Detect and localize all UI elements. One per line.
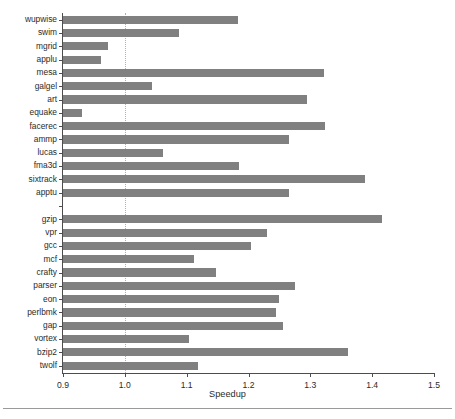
bar-row-parser bbox=[63, 279, 434, 292]
y-tick-label-crafty: crafty bbox=[0, 266, 57, 279]
bar-vpr bbox=[63, 229, 267, 237]
y-tick-label-parser: parser bbox=[0, 279, 57, 292]
y-tick-label-gap: gap bbox=[0, 319, 57, 332]
plot-area: 0.91.01.11.21.31.41.5 bbox=[62, 13, 434, 374]
bar-equake bbox=[63, 109, 82, 117]
y-tick-label-gcc: gcc bbox=[0, 239, 57, 252]
y-tick-label-facerec: facerec bbox=[0, 120, 57, 133]
bar-parser bbox=[63, 282, 295, 290]
speedup-bar-chart: 0.91.01.11.21.31.41.5 wupwiseswimmgridap… bbox=[0, 0, 455, 419]
y-tick-label-equake: equake bbox=[0, 106, 57, 119]
y-tick-label-lucas: lucas bbox=[0, 146, 57, 159]
bar-mgrid bbox=[63, 42, 108, 50]
y-tick-label-vortex: vortex bbox=[0, 332, 57, 345]
bar-row-lucas bbox=[63, 146, 434, 159]
y-tick-label-ammp: ammp bbox=[0, 133, 57, 146]
bar-row-mgrid bbox=[63, 40, 434, 53]
bar-row-gzip bbox=[63, 213, 434, 226]
y-tick-parser bbox=[59, 286, 63, 287]
bar-row-twolf bbox=[63, 359, 434, 372]
y-tick-gap bbox=[59, 326, 63, 327]
y-tick-label-gzip: gzip bbox=[0, 213, 57, 226]
y-tick-twolf bbox=[59, 366, 63, 367]
bar-row-spacer bbox=[63, 199, 434, 212]
bar-row-applu bbox=[63, 53, 434, 66]
y-tick-perlbmk bbox=[59, 312, 63, 313]
y-tick-art bbox=[59, 100, 63, 101]
bar-row-art bbox=[63, 93, 434, 106]
bar-swim bbox=[63, 29, 179, 37]
bar-perlbmk bbox=[63, 308, 276, 316]
y-tick-gzip bbox=[59, 219, 63, 220]
bar-lucas bbox=[63, 149, 163, 157]
x-tick-1.4 bbox=[372, 373, 373, 377]
y-tick-eon bbox=[59, 299, 63, 300]
bar-twolf bbox=[63, 362, 198, 370]
y-tick-label-swim: swim bbox=[0, 26, 57, 39]
bar-gap bbox=[63, 322, 283, 330]
bar-row-mesa bbox=[63, 66, 434, 79]
bar-row-swim bbox=[63, 26, 434, 39]
y-tick-equake bbox=[59, 113, 63, 114]
y-tick-label-wupwise: wupwise bbox=[0, 13, 57, 26]
y-tick-label-art: art bbox=[0, 93, 57, 106]
bar-row-apptu bbox=[63, 186, 434, 199]
y-tick-mgrid bbox=[59, 46, 63, 47]
bar-row-fma3d bbox=[63, 159, 434, 172]
y-tick-facerec bbox=[59, 126, 63, 127]
bar-row-bzip2 bbox=[63, 346, 434, 359]
bar-row-eon bbox=[63, 292, 434, 305]
bar-row-equake bbox=[63, 106, 434, 119]
y-tick-label-sixtrack: sixtrack bbox=[0, 173, 57, 186]
y-tick-label-mgrid: mgrid bbox=[0, 40, 57, 53]
y-tick-wupwise bbox=[59, 20, 63, 21]
y-tick-swim bbox=[59, 33, 63, 34]
bar-crafty bbox=[63, 268, 216, 276]
footer-divider bbox=[3, 408, 452, 409]
y-tick-apptu bbox=[59, 193, 63, 194]
y-tick-bzip2 bbox=[59, 352, 63, 353]
y-tick-mesa bbox=[59, 73, 63, 74]
y-tick-mcf bbox=[59, 259, 63, 260]
bar-fma3d bbox=[63, 162, 239, 170]
y-tick-lucas bbox=[59, 153, 63, 154]
x-tick-1.1 bbox=[187, 373, 188, 377]
bar-facerec bbox=[63, 122, 325, 130]
bar-galgel bbox=[63, 82, 152, 90]
bar-wupwise bbox=[63, 16, 238, 24]
y-tick-spacer bbox=[59, 206, 63, 207]
bar-row-gcc bbox=[63, 239, 434, 252]
x-tick-1.3 bbox=[310, 373, 311, 377]
y-tick-applu bbox=[59, 60, 63, 61]
y-tick-fma3d bbox=[59, 166, 63, 167]
x-tick-0.9 bbox=[63, 373, 64, 377]
bar-art bbox=[63, 95, 307, 103]
y-tick-label-twolf: twolf bbox=[0, 359, 57, 372]
bar-mcf bbox=[63, 255, 194, 263]
x-tick-1.0 bbox=[125, 373, 126, 377]
bar-gzip bbox=[63, 215, 382, 223]
y-tick-galgel bbox=[59, 86, 63, 87]
bar-apptu bbox=[63, 189, 289, 197]
bar-row-sixtrack bbox=[63, 173, 434, 186]
y-tick-label-applu: applu bbox=[0, 53, 57, 66]
y-tick-crafty bbox=[59, 273, 63, 274]
bar-gcc bbox=[63, 242, 251, 250]
bar-applu bbox=[63, 56, 101, 64]
y-tick-label-apptu: apptu bbox=[0, 186, 57, 199]
y-tick-label-perlbmk: perlbmk bbox=[0, 306, 57, 319]
bar-row-crafty bbox=[63, 266, 434, 279]
y-tick-label-bzip2: bzip2 bbox=[0, 346, 57, 359]
bar-row-gap bbox=[63, 319, 434, 332]
bar-bzip2 bbox=[63, 348, 348, 356]
x-tick-1.2 bbox=[249, 373, 250, 377]
bar-row-galgel bbox=[63, 80, 434, 93]
y-tick-ammp bbox=[59, 139, 63, 140]
bar-eon bbox=[63, 295, 279, 303]
bar-sixtrack bbox=[63, 175, 365, 183]
x-tick-1.5 bbox=[434, 373, 435, 377]
y-tick-label-mcf: mcf bbox=[0, 253, 57, 266]
bar-row-vpr bbox=[63, 226, 434, 239]
x-axis-title: Speedup bbox=[0, 389, 455, 399]
bar-row-perlbmk bbox=[63, 306, 434, 319]
